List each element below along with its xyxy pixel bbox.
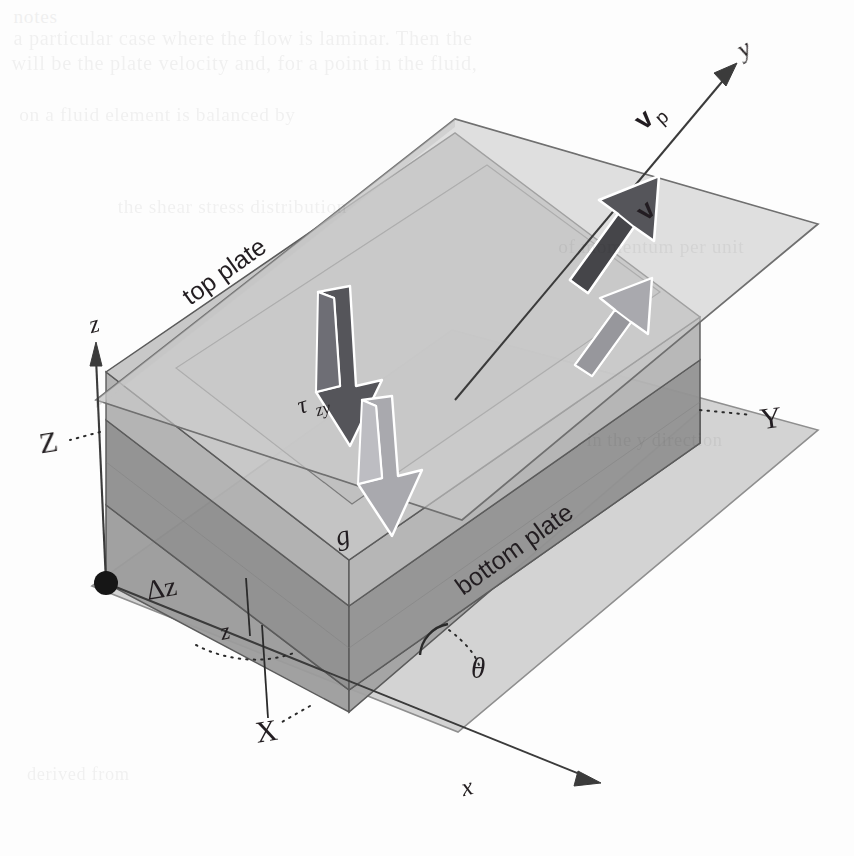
Y-upper-label: Y — [758, 400, 784, 435]
leader-X — [282, 706, 310, 722]
theta-label: θ — [471, 652, 485, 684]
X-upper-label: X — [253, 713, 280, 749]
leader-Z — [70, 432, 100, 440]
Z-upper-label: Z — [37, 424, 60, 459]
origin-dot — [94, 571, 118, 595]
diagram-svg: top plate bottom plate z y x Z Y X v p v — [0, 0, 854, 856]
z-axis-line — [96, 358, 106, 583]
y-axis-arrowhead — [714, 63, 737, 86]
z-axis-label: z — [85, 309, 102, 338]
figure-canvas: notes a particular case where the flow i… — [0, 0, 854, 856]
x-axis-label: x — [457, 772, 475, 801]
plate-velocity-symbol: v — [628, 103, 659, 135]
delta-z-label: Δz — [144, 570, 179, 606]
x-axis-arrowhead — [574, 771, 601, 786]
plate-velocity-label: v p — [628, 95, 673, 140]
y-axis-label: y — [729, 33, 756, 66]
z-axis-arrowhead — [90, 342, 102, 366]
